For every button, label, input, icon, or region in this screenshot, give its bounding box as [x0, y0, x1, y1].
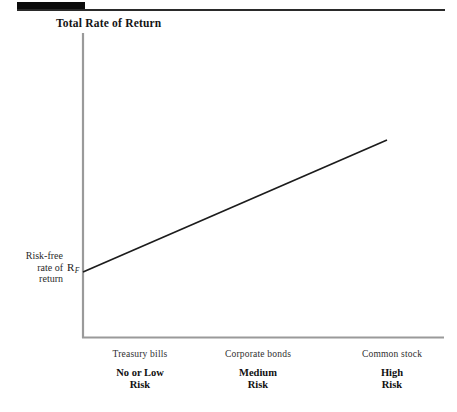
- x-axis-risk-label-line-1: Medium: [188, 367, 328, 379]
- y-axis-caption-line-2: rate of: [6, 262, 63, 274]
- risk-return-line: [83, 140, 387, 272]
- x-axis-group-common-stock: Common stock High Risk: [322, 349, 457, 391]
- page-title: Total Rate of Return: [56, 17, 161, 29]
- risk-free-rate-symbol-subscript: F: [75, 266, 80, 275]
- x-axis-category-label: Common stock: [322, 349, 457, 359]
- x-axis-category-label: Corporate bonds: [188, 349, 328, 359]
- x-axis-risk-label-line-1: High: [322, 367, 457, 379]
- x-axis-risk-label: High Risk: [322, 367, 457, 391]
- risk-free-rate-symbol-base: R: [67, 261, 74, 273]
- risk-free-rate-symbol: RF: [67, 261, 79, 275]
- x-axis-risk-label: Medium Risk: [188, 367, 328, 391]
- x-axis-risk-label-line-2: Risk: [188, 379, 328, 391]
- y-axis-caption-line-3: return: [6, 273, 63, 285]
- y-axis-caption: Risk-free rate of return: [6, 250, 63, 285]
- y-axis-caption-line-1: Risk-free: [6, 250, 63, 262]
- x-axis-risk-label-line-2: Risk: [322, 379, 457, 391]
- header-horizontal-rule: [17, 9, 445, 11]
- x-axis-group-corporate-bonds: Corporate bonds Medium Risk: [188, 349, 328, 391]
